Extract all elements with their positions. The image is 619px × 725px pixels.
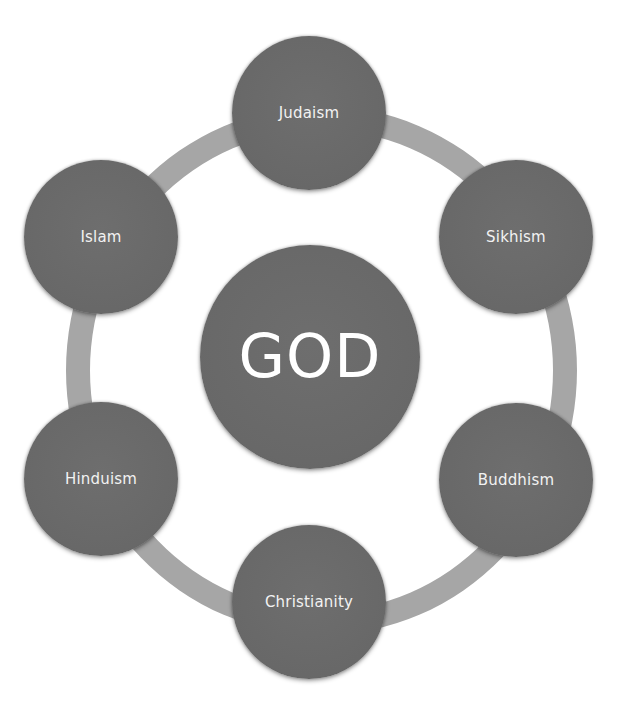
center-node-god: GOD bbox=[200, 245, 420, 469]
node-label: Islam bbox=[80, 228, 121, 246]
node-hinduism: Hinduism bbox=[24, 402, 178, 556]
node-christianity: Christianity bbox=[232, 525, 386, 679]
node-label: Hinduism bbox=[65, 470, 137, 488]
node-buddhism: Buddhism bbox=[439, 403, 593, 557]
center-node-label: GOD bbox=[239, 321, 382, 391]
node-sikhism: Sikhism bbox=[439, 160, 593, 314]
node-label: Buddhism bbox=[478, 471, 555, 489]
node-label: Sikhism bbox=[486, 228, 546, 246]
node-label: Judaism bbox=[279, 104, 340, 122]
religions-cycle-diagram: GOD Judaism Sikhism Buddhism Christianit… bbox=[0, 0, 619, 725]
node-label: Christianity bbox=[265, 593, 353, 611]
node-judaism: Judaism bbox=[232, 36, 386, 190]
node-islam: Islam bbox=[24, 160, 178, 314]
